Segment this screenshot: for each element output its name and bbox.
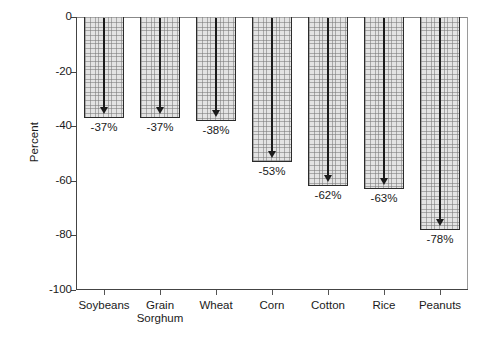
bar-value-label: -63% [354,192,414,204]
y-axis-label: Percent [28,102,40,182]
value-arrow-shaft [383,18,385,180]
x-tick-mark [384,290,385,295]
x-tick-mark [440,290,441,295]
value-arrow-shaft [327,18,329,177]
y-tick-label: -60 [55,174,72,186]
y-tick-label: -80 [55,228,72,240]
value-arrow-head [380,178,388,185]
value-arrow-shaft [215,18,217,112]
y-tick-label: -20 [55,65,72,77]
bar-value-label: -78% [410,233,470,245]
value-arrow-head [324,175,332,182]
value-arrow-shaft [103,18,105,109]
x-tick-mark [216,290,217,295]
x-tick-label: Peanuts [395,299,485,312]
y-tick-label: -100 [49,283,72,295]
value-arrow-head [156,107,164,114]
bar-value-label: -37% [130,121,190,133]
x-tick-mark [272,290,273,295]
x-tick-mark [328,290,329,295]
x-tick-mark [104,290,105,295]
bar-chart: Percent 0-20-40-60-80-100 SoybeansGrain … [0,0,491,337]
bar-value-label: -37% [74,121,134,133]
bar-value-label: -62% [298,189,358,201]
value-arrow-head [268,151,276,158]
x-tick-mark [160,290,161,295]
value-arrow-shaft [271,18,273,153]
plot-area: 0-20-40-60-80-100 SoybeansGrain SorghumW… [76,17,468,290]
value-arrow-head [100,107,108,114]
bar-value-label: -53% [242,165,302,177]
axis-right [467,17,468,290]
y-tick-label: -40 [55,119,72,131]
axis-left [76,17,77,290]
value-arrow-head [212,110,220,117]
value-arrow-head [436,219,444,226]
value-arrow-shaft [439,18,441,221]
y-tick-label: 0 [66,10,72,22]
value-arrow-shaft [159,18,161,109]
bar-value-label: -38% [186,124,246,136]
